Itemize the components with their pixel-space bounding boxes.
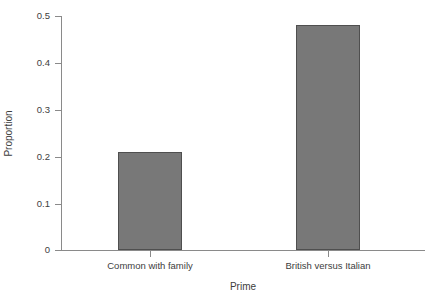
y-axis-tick-label-0-2: 0.2 <box>37 152 50 162</box>
y-axis-title: Proportion <box>2 16 16 251</box>
y-axis-tick <box>55 63 61 64</box>
x-axis-category-label-2: British versus Italian <box>248 260 408 271</box>
x-axis-line <box>61 250 425 251</box>
x-axis-tick <box>150 251 151 257</box>
y-axis-tick <box>55 204 61 205</box>
y-axis-tick <box>55 157 61 158</box>
bar-chart: 0.5 0.4 0.3 0.2 0.1 0 Common with family… <box>0 0 430 298</box>
bar-british-versus-italian <box>296 25 360 250</box>
x-axis-category-label-1: Common with family <box>70 260 230 271</box>
y-axis-tick <box>55 16 61 17</box>
y-axis-tick-label-0-5: 0.5 <box>37 11 50 21</box>
y-axis-tick-label-0: 0 <box>45 245 50 255</box>
x-axis-tick <box>328 251 329 257</box>
y-axis-tick-label-0-1: 0.1 <box>37 199 50 209</box>
x-axis-title: Prime <box>61 281 425 293</box>
y-axis-tick-label-0-4: 0.4 <box>37 58 50 68</box>
y-axis-tick <box>55 250 61 251</box>
bar-common-with-family <box>118 152 182 250</box>
y-axis-line <box>61 16 62 251</box>
y-axis-tick-label-0-3: 0.3 <box>37 105 50 115</box>
y-axis-tick <box>55 110 61 111</box>
